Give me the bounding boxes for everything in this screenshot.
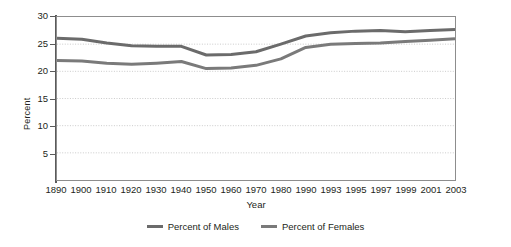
y-tick-mark-30 <box>50 16 56 17</box>
y-tick-label-15: 15 <box>26 94 48 104</box>
y-tick-label-30: 30 <box>26 11 48 21</box>
x-axis-tick-labels: 1890190019101920193019401950196019701980… <box>56 184 456 198</box>
plot-svg <box>57 17 455 180</box>
plot-area <box>56 16 456 181</box>
y-tick-mark-20 <box>50 71 56 72</box>
y-tick-label-25: 25 <box>26 39 48 49</box>
legend-label-males: Percent of Males <box>168 221 239 232</box>
x-tick-label-2003: 2003 <box>439 184 473 196</box>
line-chart: Percent 51015202530 18901900191019201930… <box>0 0 511 247</box>
legend-swatch-females <box>261 225 277 228</box>
y-tick-label-5: 5 <box>26 149 48 159</box>
y-tick-label-20: 20 <box>26 66 48 76</box>
y-tick-mark-25 <box>50 44 56 45</box>
legend-item-females[interactable]: Percent of Females <box>261 221 364 232</box>
y-axis-tick-labels: 51015202530 <box>22 0 48 247</box>
x-axis-title: Year <box>56 199 456 210</box>
y-tick-mark-10 <box>50 126 56 127</box>
legend-item-males[interactable]: Percent of Males <box>147 221 239 232</box>
legend-swatch-males <box>147 225 163 228</box>
chart-legend: Percent of Males Percent of Females <box>0 221 511 232</box>
y-tick-label-10: 10 <box>26 121 48 131</box>
legend-label-females: Percent of Females <box>282 221 364 232</box>
y-tick-mark-15 <box>50 99 56 100</box>
y-tick-mark-5 <box>50 154 56 155</box>
